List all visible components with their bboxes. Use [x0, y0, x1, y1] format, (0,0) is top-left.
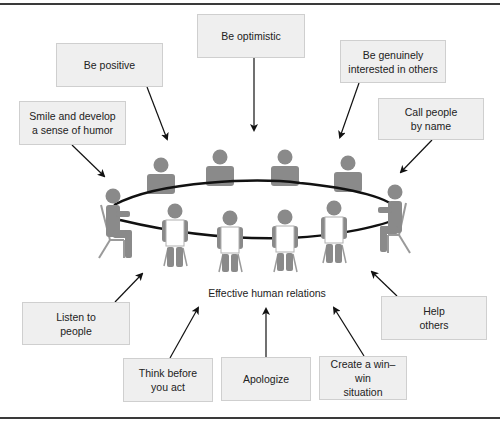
person-icon [217, 211, 243, 273]
arrow-think-before [170, 308, 198, 358]
box-apologize: Apologize [221, 357, 311, 401]
box-label: Be positive [84, 58, 135, 72]
box-label: Think before you act [139, 366, 197, 394]
center-label: Effective human relations [200, 287, 334, 299]
person-icon [334, 156, 362, 193]
box-label: Create a win–win situation [324, 357, 402, 399]
box-help-others: Help others [381, 296, 487, 340]
box-smile-humor: Smile and develop a sense of humor [19, 101, 126, 145]
arrow-be-genuinely-interested [340, 83, 359, 137]
box-think-before: Think before you act [123, 358, 213, 402]
box-label: Help others [419, 304, 448, 332]
box-be-genuinely-interested: Be genuinely interested in others [340, 40, 446, 83]
box-be-optimistic: Be optimistic [197, 14, 305, 58]
box-listen: Listen to people [22, 302, 130, 345]
box-label: Listen to people [56, 310, 96, 338]
box-be-positive: Be positive [56, 43, 163, 87]
person-icon [272, 210, 298, 273]
right-seated-person [378, 185, 410, 254]
box-label: Call people by name [405, 105, 458, 133]
box-call-by-name: Call people by name [378, 98, 484, 140]
box-label: Apologize [243, 372, 289, 386]
box-win-win: Create a win–win situation [319, 356, 407, 400]
box-label: Smile and develop a sense of humor [29, 109, 115, 137]
box-label: Be genuinely interested in others [348, 48, 437, 76]
box-label: Be optimistic [221, 29, 281, 43]
person-icon [321, 201, 347, 264]
arrow-be-positive [147, 87, 167, 139]
arrow-win-win [334, 308, 364, 356]
arrow-listen [115, 274, 142, 302]
arrow-call-by-name [401, 140, 432, 172]
person-icon [162, 204, 188, 268]
arrow-smile-humor [72, 145, 104, 176]
arrow-help-others [372, 272, 397, 296]
